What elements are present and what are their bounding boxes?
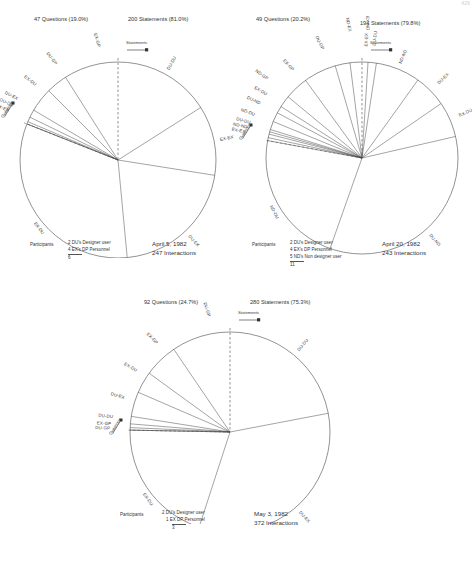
pie-slice-divider bbox=[268, 138, 362, 158]
chart-footer: Participants 2 DU's Designer user 1 EX D… bbox=[120, 510, 350, 550]
pie-slice-divider bbox=[230, 413, 328, 432]
chart-april-5: 47 Questions (19.0%) 200 Statements (81.… bbox=[0, 8, 236, 288]
participants-total: 6 bbox=[68, 254, 82, 260]
questions-arrow-icon bbox=[2, 99, 20, 119]
chart-date-block: May 3, 1982 372 Interactions bbox=[254, 510, 298, 527]
chart-date-block: April 5, 1982 247 Interactions bbox=[152, 240, 196, 257]
statements-arrow-icon bbox=[370, 46, 396, 54]
pie-slice-divider bbox=[362, 104, 441, 158]
axis-questions-dashed bbox=[24, 123, 118, 160]
participant-row: 4 EX's DP Personnel bbox=[68, 247, 110, 252]
pie-slice-divider bbox=[269, 134, 362, 158]
participants-label: Participants bbox=[252, 242, 276, 247]
pie-slice-divider bbox=[149, 373, 230, 432]
page-number: 426 bbox=[462, 1, 470, 6]
chart-interactions: 247 Interactions bbox=[152, 249, 196, 258]
participant-row: 2 DU's Designer user bbox=[68, 240, 111, 245]
statements-legend-label: Statements bbox=[238, 310, 259, 315]
chart-may-3: 92 Questions (24.7%) 280 Statements (75.… bbox=[108, 292, 358, 574]
questions-arrow-icon bbox=[240, 121, 258, 141]
participants-label: Participants bbox=[120, 512, 144, 517]
chart-interactions: 243 Interactions bbox=[382, 249, 426, 258]
pie-slice-divider bbox=[118, 107, 201, 160]
chart-date: April 20, 1982 bbox=[382, 240, 426, 249]
chart-footer: Participants 2 DU's Designer user 4 EX's… bbox=[252, 240, 472, 284]
slice-label: DU-GP bbox=[95, 425, 110, 430]
pie-slice-divider bbox=[270, 132, 362, 158]
slice-label: EX-EX bbox=[363, 32, 368, 46]
pie-slice-divider bbox=[30, 117, 118, 160]
pie-slice-divider bbox=[65, 77, 118, 160]
pie-svg bbox=[238, 8, 474, 258]
participant-row: 2 DU's Designer user bbox=[162, 510, 205, 515]
pie-slice-divider bbox=[335, 66, 362, 158]
chart-date: April 5, 1982 bbox=[152, 240, 196, 249]
participant-row: 1 EX DP Personnel bbox=[166, 517, 205, 522]
pie-slice-divider bbox=[288, 97, 362, 158]
pie-svg bbox=[108, 292, 358, 524]
statements-legend-label: Statements bbox=[370, 40, 391, 45]
participants-total: 11 bbox=[290, 261, 304, 267]
statements-arrow-icon bbox=[126, 46, 152, 54]
pie-slice-divider bbox=[362, 63, 376, 158]
pie-diagram: EX-EXDU-DUND-NDDU-EXEX-DUDU-NDND-DUEX-ND… bbox=[238, 8, 474, 258]
participants-label: Participants bbox=[30, 242, 54, 247]
slice-label: EX-ND bbox=[365, 16, 371, 30]
participant-row: 2 DU's Designer user bbox=[290, 240, 333, 245]
questions-arrow-icon bbox=[110, 416, 128, 436]
axis-questions-dashed bbox=[127, 430, 230, 432]
statements-arrow-icon bbox=[238, 316, 264, 324]
pie-slice-divider bbox=[362, 136, 456, 158]
chart-april-20: 49 Questions (20.2%) 194 Statements (79.… bbox=[238, 8, 474, 288]
pie-diagram: DU-DUEX-EXDU-EXEX-DUEX-GPDU-GPEX-DUDU-EX… bbox=[0, 8, 236, 258]
participant-row: 5 ND's Non designer user bbox=[290, 254, 341, 259]
pie-slice-divider bbox=[130, 424, 230, 432]
pie-diagram: DU-DUDU-EXEX-DUDU-GPEX-GPEX-DUDU-EXDU-DU… bbox=[108, 292, 358, 524]
chart-date: May 3, 1982 bbox=[254, 510, 298, 519]
pie-slice-divider bbox=[362, 62, 368, 158]
statements-legend-label: Statements bbox=[126, 40, 147, 45]
chart-footer: Participants 2 DU's Designer user 4 EX's… bbox=[30, 240, 236, 280]
pie-slice-divider bbox=[118, 160, 215, 175]
participant-row: 4 EX's DP Personnel bbox=[290, 247, 332, 252]
chart-date-block: April 20, 1982 243 Interactions bbox=[382, 240, 426, 257]
pie-slice-divider bbox=[330, 158, 362, 249]
pie-slice-divider bbox=[28, 122, 118, 160]
chart-interactions: 372 Interactions bbox=[254, 519, 298, 528]
participants-total: 3 bbox=[172, 524, 186, 530]
pie-slice-divider bbox=[362, 80, 418, 158]
